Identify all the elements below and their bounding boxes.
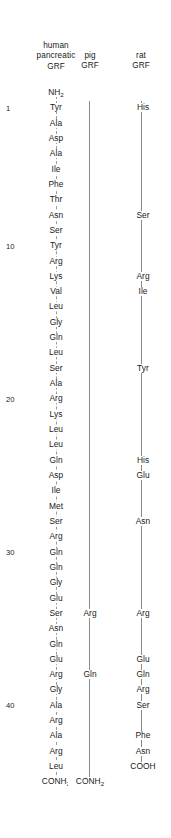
residue-pig: Gln bbox=[68, 670, 112, 679]
residue-pig: CONH2 bbox=[68, 777, 112, 786]
pig-grf-sequence-column: ArgGlnCONH2 bbox=[68, 0, 112, 838]
residue-pig: Arg bbox=[68, 609, 112, 618]
residue-rat: COOH bbox=[120, 762, 166, 771]
residue-rat: Ser bbox=[120, 211, 166, 220]
rat-grf-sequence-column: HisSerArgIleTyrHisGluAsnArgGluGlnArgSerP… bbox=[120, 0, 166, 838]
residue-rat: Ser bbox=[120, 701, 166, 710]
residue-rat: Arg bbox=[120, 685, 166, 694]
residue-rat: Asn bbox=[120, 517, 166, 526]
residue-rat: Phe bbox=[120, 731, 166, 740]
residue-rat: Asn bbox=[120, 747, 166, 756]
residue-rat: Glu bbox=[120, 655, 166, 664]
residue-rat: Gln bbox=[120, 670, 166, 679]
residue-rat: Tyr bbox=[120, 364, 166, 373]
residue-rat: His bbox=[120, 456, 166, 465]
grf-sequence-comparison-figure: human pancreatic GRF pig GRF rat GRF 110… bbox=[0, 0, 171, 838]
residue-rat: Arg bbox=[120, 609, 166, 618]
residue-rat: Glu bbox=[120, 471, 166, 480]
residue-rat: Ile bbox=[120, 287, 166, 296]
residue-rat: His bbox=[120, 103, 166, 112]
residue-rat: Arg bbox=[120, 272, 166, 281]
